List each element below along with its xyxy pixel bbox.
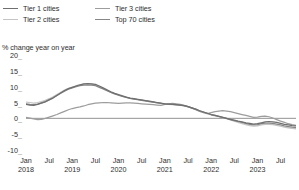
chart-legend: Tier 1 cities Tier 3 cities Tier 2 citie… <box>3 3 296 25</box>
price-growth-line-chart: Tier 1 cities Tier 3 cities Tier 2 citie… <box>0 0 299 190</box>
y-axis-tick: 0_ <box>14 114 26 123</box>
x-axis-tick: Jan2020 <box>111 156 127 174</box>
legend-item-tier-2-cities[interactable]: Tier 2 cities <box>3 14 95 25</box>
x-axis-tick: Jul <box>276 156 285 165</box>
x-axis-tick: Jul <box>91 156 100 165</box>
x-axis-tick: Jul <box>137 156 146 165</box>
x-axis-tick: Jan2023 <box>249 156 265 174</box>
line-swatch-icon <box>3 8 18 9</box>
y-axis-tick: 15_ <box>10 66 26 75</box>
y-axis-tick: -5_ <box>12 130 26 139</box>
line-swatch-icon <box>95 8 110 9</box>
x-axis-tick: Jul <box>230 156 239 165</box>
y-axis-tick: -10_ <box>8 146 26 155</box>
legend-label: Tier 2 cities <box>23 16 59 24</box>
x-axis-tick: Jul <box>183 156 192 165</box>
plot-area: 20_15_10_5_0_-5_-10_ <box>26 55 296 150</box>
x-axis-tick: Jul <box>45 156 54 165</box>
line-swatch-icon <box>3 19 18 20</box>
series-line <box>26 85 296 128</box>
x-axis-tick: Jan2019 <box>64 156 80 174</box>
x-axis-tick: Jan2021 <box>157 156 173 174</box>
x-axis-tick: Jan2018 <box>18 156 34 174</box>
legend-item-tier-1-cities[interactable]: Tier 1 cities <box>3 3 95 14</box>
x-axis-labels: Jan2018JulJan2019JulJan2020JulJan2021Jul… <box>26 156 296 186</box>
y-axis-tick: 10_ <box>10 82 26 91</box>
legend-item-tier-3-cities[interactable]: Tier 3 cities <box>95 3 296 14</box>
series-line <box>26 103 296 126</box>
y-axis-tick: 5_ <box>14 98 26 107</box>
legend-label: Tier 3 cities <box>115 5 151 13</box>
y-axis-tick: 20_ <box>10 51 26 60</box>
legend-label: Top 70 cities <box>115 16 155 24</box>
x-axis-tick: Jan2022 <box>203 156 219 174</box>
legend-item-top-70-cities[interactable]: Top 70 cities <box>95 14 296 25</box>
legend-label: Tier 1 cities <box>23 5 59 13</box>
line-swatch-icon <box>95 19 110 20</box>
chart-canvas <box>26 55 296 150</box>
